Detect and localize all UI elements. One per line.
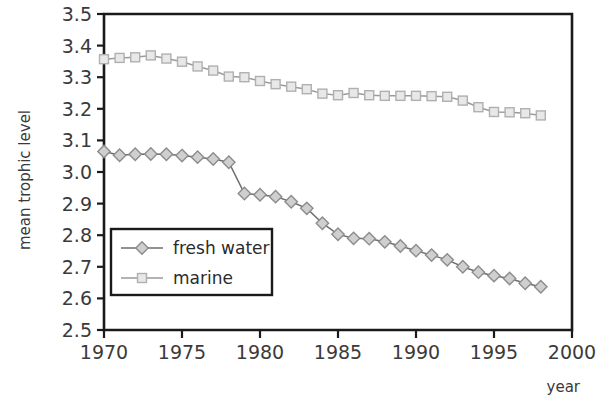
data-point-marker bbox=[302, 85, 311, 94]
y-tick-label: 2.7 bbox=[62, 256, 92, 278]
data-point-marker bbox=[365, 91, 374, 100]
legend-marker-square bbox=[138, 274, 147, 283]
x-tick-label: 1985 bbox=[314, 341, 362, 363]
x-tick-label: 1990 bbox=[392, 341, 440, 363]
chart-legend: fresh watermarine bbox=[111, 229, 272, 295]
trophic-level-line-chart: mean trophic level 2.52.62.72.82.93.03.1… bbox=[0, 0, 602, 409]
x-tick-label: 1980 bbox=[236, 341, 284, 363]
x-tick-label: 2000 bbox=[548, 341, 596, 363]
legend-label: marine bbox=[173, 268, 233, 288]
data-point-marker bbox=[131, 53, 140, 62]
x-tick-label: 1975 bbox=[158, 341, 206, 363]
chart-container: mean trophic level 2.52.62.72.82.93.03.1… bbox=[0, 0, 602, 409]
x-tick-label: 1970 bbox=[80, 341, 128, 363]
data-point-marker bbox=[318, 89, 327, 98]
y-tick-label: 3.0 bbox=[62, 161, 92, 183]
data-point-marker bbox=[162, 54, 171, 63]
data-point-marker bbox=[334, 91, 343, 100]
data-point-marker bbox=[146, 51, 155, 60]
legend-label: fresh water bbox=[173, 238, 270, 258]
data-point-marker bbox=[396, 91, 405, 100]
x-axis-title-label: year bbox=[547, 378, 581, 396]
data-point-marker bbox=[380, 91, 389, 100]
data-point-marker bbox=[521, 109, 530, 118]
data-point-marker bbox=[490, 107, 499, 116]
y-tick-label: 3.1 bbox=[62, 129, 92, 151]
data-point-marker bbox=[271, 80, 280, 89]
y-tick-label: 3.3 bbox=[62, 66, 92, 88]
data-point-marker bbox=[412, 91, 421, 100]
y-tick-label: 2.6 bbox=[62, 287, 92, 309]
data-point-marker bbox=[458, 96, 467, 105]
y-axis-title: mean trophic level bbox=[16, 110, 34, 250]
data-point-marker bbox=[193, 62, 202, 71]
y-tick-label: 3.4 bbox=[62, 35, 92, 57]
data-point-marker bbox=[349, 89, 358, 98]
y-tick-label: 2.5 bbox=[62, 319, 92, 341]
data-point-marker bbox=[178, 57, 187, 66]
y-tick-label: 3.2 bbox=[62, 98, 92, 120]
y-axis-title-label: mean trophic level bbox=[16, 110, 34, 250]
data-point-marker bbox=[115, 53, 124, 62]
data-point-marker bbox=[443, 92, 452, 101]
data-point-marker bbox=[427, 92, 436, 101]
data-point-marker bbox=[240, 73, 249, 82]
y-tick-label: 2.9 bbox=[62, 193, 92, 215]
data-point-marker bbox=[100, 55, 109, 64]
data-point-marker bbox=[209, 66, 218, 75]
data-point-marker bbox=[536, 111, 545, 120]
data-point-marker bbox=[505, 108, 514, 117]
data-point-marker bbox=[256, 76, 265, 85]
y-tick-label: 3.5 bbox=[62, 3, 92, 25]
y-axis-tick-labels: 2.52.62.72.82.93.03.13.23.33.43.5 bbox=[62, 3, 92, 341]
data-point-marker bbox=[287, 82, 296, 91]
data-point-marker bbox=[474, 103, 483, 112]
x-tick-label: 1995 bbox=[470, 341, 518, 363]
data-point-marker bbox=[224, 72, 233, 81]
y-tick-label: 2.8 bbox=[62, 224, 92, 246]
